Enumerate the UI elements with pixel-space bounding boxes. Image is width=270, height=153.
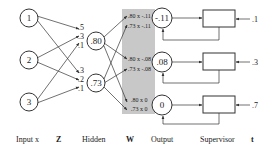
z-weight-label: .5 xyxy=(78,23,84,32)
supervisor-box-3 xyxy=(203,96,235,113)
svg-text:1: 1 xyxy=(27,13,32,23)
input-node-1: 1 xyxy=(20,9,38,27)
label-input-x: Input x xyxy=(16,135,39,144)
svg-text:.80: .80 xyxy=(90,36,102,46)
svg-text:0: 0 xyxy=(160,100,165,110)
w-product-label: .73 x -.08 xyxy=(128,66,151,72)
label-output: Output xyxy=(151,135,174,144)
hidden-node-2: .73 xyxy=(87,74,105,92)
output-row-2: .08 .3 xyxy=(152,52,258,83)
input-node-3: 3 xyxy=(20,93,38,111)
network-diagram: 1 2 3 .5 .3 .1 .3 .2 .1 .80 .73 .80 x -.… xyxy=(0,0,270,153)
w-product-label: .80 x -.08 xyxy=(128,56,151,62)
svg-text:.08: .08 xyxy=(156,57,168,67)
w-product-label: .73 x -.11 xyxy=(128,23,151,29)
label-z: Z xyxy=(56,135,61,144)
supervisor-box-2 xyxy=(203,53,235,70)
z-connections xyxy=(37,16,79,103)
hidden-node-1: .80 xyxy=(87,32,105,50)
z-weight-label: .2 xyxy=(78,75,84,84)
output-row-1: -.11 .1 xyxy=(152,8,258,40)
w-product-label: .80 x -.11 xyxy=(128,13,151,19)
w-product-label: .73 x 0 xyxy=(131,106,148,112)
target-value-3: .7 xyxy=(252,101,258,110)
z-weight-label: .1 xyxy=(78,84,84,93)
svg-text:-.11: -.11 xyxy=(155,13,169,23)
output-row-3: 0 .7 xyxy=(152,95,258,124)
w-product-label: .80 x 0 xyxy=(131,97,148,103)
z-weight-label: .3 xyxy=(78,66,84,75)
supervisor-box-1 xyxy=(203,10,235,27)
input-node-2: 2 xyxy=(20,51,38,69)
z-weight-label: .1 xyxy=(78,41,84,50)
label-w: W xyxy=(126,135,134,144)
target-value-1: .1 xyxy=(252,15,258,24)
label-supervisor: Supervisor xyxy=(200,135,235,144)
svg-text:2: 2 xyxy=(27,55,32,65)
target-value-2: .3 xyxy=(252,58,258,67)
svg-text:3: 3 xyxy=(27,97,32,107)
z-weight-label: .3 xyxy=(78,32,84,41)
label-t: t xyxy=(251,135,254,144)
label-hidden: Hidden xyxy=(82,135,106,144)
svg-text:.73: .73 xyxy=(90,78,102,88)
